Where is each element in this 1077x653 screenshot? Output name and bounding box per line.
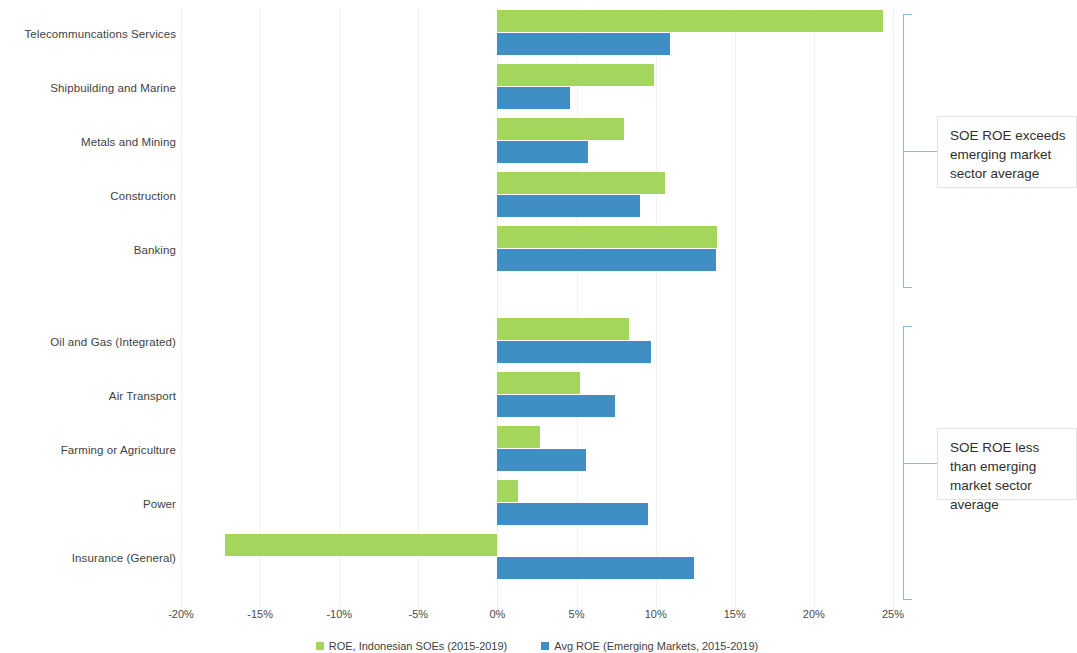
annotation-below-average: SOE ROE less than emerging market sector… xyxy=(937,428,1077,500)
category-label: Banking xyxy=(0,244,176,256)
gridline xyxy=(893,8,894,608)
bar-soe-roe[interactable] xyxy=(497,318,628,340)
bar-emerging-market-roe[interactable] xyxy=(497,195,639,217)
bar-row xyxy=(181,224,893,278)
bar-row xyxy=(181,478,893,532)
category-label: Telecommuncations Services xyxy=(0,28,176,40)
x-axis-tick-label: 15% xyxy=(724,608,746,620)
x-axis-tick-label: 25% xyxy=(882,608,904,620)
bar-soe-roe[interactable] xyxy=(497,426,540,448)
x-axis-tick-label: -10% xyxy=(326,608,352,620)
bar-emerging-market-roe[interactable] xyxy=(497,449,586,471)
bar-emerging-market-roe[interactable] xyxy=(497,249,715,271)
bar-row xyxy=(181,370,893,424)
legend-label: ROE, Indonesian SOEs (2015-2019) xyxy=(329,640,508,652)
bar-row xyxy=(181,316,893,370)
category-label: Insurance (General) xyxy=(0,552,176,564)
bar-emerging-market-roe[interactable] xyxy=(497,395,614,417)
bar-emerging-market-roe[interactable] xyxy=(497,33,669,55)
category-label: Oil and Gas (Integrated) xyxy=(0,336,176,348)
x-axis: -20%-15%-10%-5%0%5%10%15%20%25% xyxy=(181,608,893,628)
bar-row xyxy=(181,116,893,170)
category-label: Metals and Mining xyxy=(0,136,176,148)
bar-soe-roe[interactable] xyxy=(497,372,579,394)
plot-area xyxy=(181,8,893,608)
bar-emerging-market-roe[interactable] xyxy=(497,557,693,579)
bar-emerging-market-roe[interactable] xyxy=(497,503,647,525)
x-axis-tick-label: -20% xyxy=(168,608,194,620)
category-label: Power xyxy=(0,498,176,510)
x-axis-tick-label: 5% xyxy=(569,608,585,620)
x-axis-tick-label: 0% xyxy=(489,608,505,620)
bar-soe-roe[interactable] xyxy=(497,118,624,140)
legend-swatch-icon xyxy=(316,642,324,650)
bar-emerging-market-roe[interactable] xyxy=(497,141,587,163)
category-label: Construction xyxy=(0,190,176,202)
bar-soe-roe[interactable] xyxy=(497,226,717,248)
bar-emerging-market-roe[interactable] xyxy=(497,87,570,109)
bar-soe-roe[interactable] xyxy=(497,172,665,194)
bar-soe-roe[interactable] xyxy=(497,64,654,86)
x-axis-tick-label: -15% xyxy=(247,608,273,620)
bar-soe-roe[interactable] xyxy=(497,10,883,32)
category-label: Air Transport xyxy=(0,390,176,402)
category-axis: Telecommuncations ServicesShipbuilding a… xyxy=(0,8,176,608)
bar-soe-roe[interactable] xyxy=(225,534,497,556)
legend: ROE, Indonesian SOEs (2015-2019)Avg ROE … xyxy=(181,638,893,653)
legend-swatch-icon xyxy=(541,642,549,650)
legend-item[interactable]: ROE, Indonesian SOEs (2015-2019) xyxy=(316,640,508,652)
x-axis-tick-label: -5% xyxy=(409,608,429,620)
bar-row xyxy=(181,532,893,586)
annotation-leader-line-2 xyxy=(913,463,937,464)
annotation-above-average: SOE ROE exceeds emerging market sector a… xyxy=(937,116,1077,188)
legend-item[interactable]: Avg ROE (Emerging Markets, 2015-2019) xyxy=(541,640,758,652)
legend-label: Avg ROE (Emerging Markets, 2015-2019) xyxy=(554,640,758,652)
bar-rows xyxy=(181,8,893,608)
bar-row xyxy=(181,8,893,62)
bar-row xyxy=(181,62,893,116)
category-label: Shipbuilding and Marine xyxy=(0,82,176,94)
bar-soe-roe[interactable] xyxy=(497,480,518,502)
x-axis-tick-label: 10% xyxy=(645,608,667,620)
bar-row xyxy=(181,170,893,224)
bar-emerging-market-roe[interactable] xyxy=(497,341,650,363)
category-label: Farming or Agriculture xyxy=(0,444,176,456)
x-axis-tick-label: 20% xyxy=(803,608,825,620)
annotation-leader-line-1 xyxy=(913,151,937,152)
bar-row xyxy=(181,424,893,478)
